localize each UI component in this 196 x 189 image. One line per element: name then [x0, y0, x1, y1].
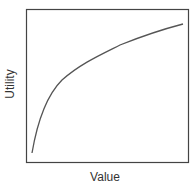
- x-axis-label: Value: [80, 170, 130, 184]
- y-axis-label: Utility: [3, 60, 17, 108]
- utility-curve: [32, 24, 183, 153]
- chart-plot: [0, 0, 196, 189]
- plot-frame: [27, 10, 189, 163]
